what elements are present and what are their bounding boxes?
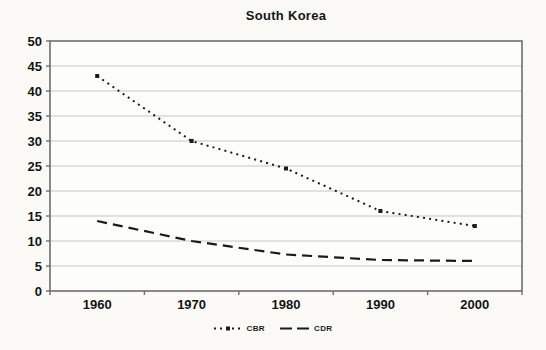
x-axis-label: 2000: [460, 297, 489, 312]
legend-label-cbr: CBR: [246, 324, 265, 333]
y-axis-label: 0: [35, 284, 42, 299]
cbr-dotted-line-sample-icon: [213, 324, 243, 333]
x-axis-label: 1970: [177, 297, 206, 312]
cdr-dashed-line-sample-icon: [279, 324, 311, 333]
y-axis-label: 45: [28, 59, 42, 74]
y-axis-label: 30: [28, 134, 42, 149]
data-point-marker-cbr: [378, 209, 382, 213]
data-point-marker-cbr: [95, 74, 99, 78]
y-axis-label: 25: [28, 159, 42, 174]
y-axis-label: 10: [28, 234, 42, 249]
x-axis-label: 1980: [272, 297, 301, 312]
y-axis-label: 5: [35, 259, 42, 274]
data-point-marker-cbr: [284, 167, 288, 171]
legend-item-cdr: CDR: [279, 324, 333, 333]
y-axis-label: 35: [28, 109, 42, 124]
data-point-marker-cbr: [473, 224, 477, 228]
y-axis-label: 50: [28, 34, 42, 49]
y-axis-label: 20: [28, 184, 42, 199]
chart-page: South Korea 0510152025303540455019601970…: [0, 0, 546, 350]
line-chart-plot: 0510152025303540455019601970198019902000: [0, 0, 546, 350]
legend-label-cdr: CDR: [314, 324, 333, 333]
x-axis-label: 1960: [83, 297, 112, 312]
legend: CBR CDR: [0, 324, 546, 333]
y-axis-label: 40: [28, 84, 42, 99]
data-point-marker-cbr: [190, 139, 194, 143]
x-axis-label: 1990: [366, 297, 395, 312]
legend-item-cbr: CBR: [213, 324, 265, 333]
y-axis-label: 15: [28, 209, 42, 224]
